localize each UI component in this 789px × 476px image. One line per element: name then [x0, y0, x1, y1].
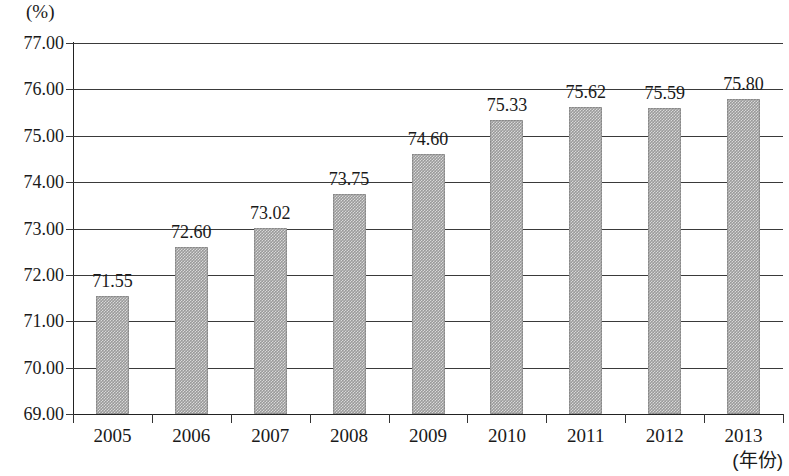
- y-axis-tick-label: 71.00: [2, 312, 64, 330]
- bar-value-label: 75.62: [543, 83, 629, 101]
- y-axis-tick-label: 77.00: [2, 34, 64, 52]
- x-axis-tick-mark: [546, 414, 547, 423]
- bar: [175, 247, 208, 414]
- y-axis-tick-label: 73.00: [2, 220, 64, 238]
- x-axis-category-label: 2006: [148, 425, 234, 447]
- gridline: [73, 43, 783, 44]
- x-axis-category-label: 2008: [306, 425, 392, 447]
- bar: [412, 154, 445, 414]
- bar-value-label: 74.60: [385, 130, 471, 148]
- bar-value-label: 72.60: [148, 223, 234, 241]
- x-axis-category-label: 2012: [622, 425, 708, 447]
- bar: [648, 108, 681, 414]
- y-axis-tick-label: 72.00: [2, 266, 64, 284]
- bar: [569, 107, 602, 414]
- y-axis-tick-mark: [66, 321, 74, 322]
- bar-value-label: 71.55: [69, 272, 155, 290]
- x-axis-tick-mark: [389, 414, 390, 423]
- y-axis-tick-mark: [66, 182, 74, 183]
- x-axis-category-label: 2009: [385, 425, 471, 447]
- bar: [727, 99, 760, 414]
- x-axis-tick-mark: [625, 414, 626, 423]
- x-axis-category-label: 2013: [701, 425, 787, 447]
- x-axis-category-label: 2011: [543, 425, 629, 447]
- bar: [333, 194, 366, 414]
- y-axis-tick-mark: [66, 89, 74, 90]
- y-axis-tick-mark: [66, 414, 74, 415]
- bar: [96, 296, 129, 414]
- y-axis-tick-mark: [66, 368, 74, 369]
- y-axis-tick-mark: [66, 229, 74, 230]
- x-axis-tick-mark: [467, 414, 468, 423]
- x-axis-category-label: 2010: [464, 425, 550, 447]
- bar-value-label: 75.33: [464, 96, 550, 114]
- y-axis-tick-label: 69.00: [2, 405, 64, 423]
- x-axis-category-label: 2005: [69, 425, 155, 447]
- bar-value-label: 75.59: [622, 84, 708, 102]
- y-axis-tick-label: 70.00: [2, 359, 64, 377]
- x-axis-tick-mark: [310, 414, 311, 423]
- bar-value-label: 73.02: [227, 204, 313, 222]
- x-axis-tick-mark: [231, 414, 232, 423]
- x-axis-tick-mark: [73, 414, 74, 423]
- x-axis-unit-label: (年份): [732, 449, 783, 473]
- x-axis-tick-mark: [783, 414, 784, 423]
- bar: [490, 120, 523, 414]
- y-axis-tick-mark: [66, 43, 74, 44]
- y-axis-tick-mark: [66, 136, 74, 137]
- bar-value-label: 73.75: [306, 170, 392, 188]
- x-axis-tick-mark: [152, 414, 153, 423]
- x-axis-baseline: [73, 414, 783, 415]
- y-axis-tick-label: 74.00: [2, 173, 64, 191]
- bar: [254, 228, 287, 414]
- bar-chart: (%) 77.0076.0075.0074.0073.0072.0071.007…: [0, 0, 789, 476]
- y-axis-tick-label: 76.00: [2, 80, 64, 98]
- bar-value-label: 75.80: [701, 75, 787, 93]
- y-axis-tick-label: 75.00: [2, 127, 64, 145]
- x-axis-tick-mark: [704, 414, 705, 423]
- y-axis-tick-labels: 77.0076.0075.0074.0073.0072.0071.0070.00…: [0, 0, 64, 476]
- x-axis-category-label: 2007: [227, 425, 313, 447]
